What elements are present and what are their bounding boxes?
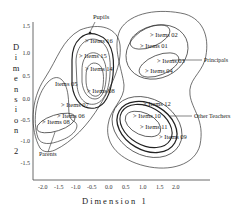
x-tick: -0.5 (87, 184, 97, 190)
item-label: > Items 04 (145, 68, 173, 75)
x-tick: 1.0 (139, 184, 147, 190)
parents-callout: Parents (39, 151, 57, 157)
item-label: > Items 16 (85, 38, 113, 45)
item-label: > Items 01 (140, 43, 168, 50)
x-tick: 0.0 (105, 184, 113, 190)
item-label: > Items 10 (133, 113, 161, 120)
pupils-marker (89, 32, 92, 35)
x-tick: -1.5 (54, 184, 64, 190)
item-label: > Items 07 (61, 102, 89, 109)
item-label: > Items 14 (85, 66, 113, 73)
item-label: > Items 08 (87, 88, 115, 95)
pupils-callout: Pupils (93, 14, 109, 21)
item-label: > Items 03 (157, 58, 185, 65)
item-label: > Items 02 (150, 32, 178, 39)
item-label: > Items 11 (140, 124, 168, 131)
other-teachers-callout: Other Teachers (194, 113, 230, 119)
principals-contour-lower (136, 48, 182, 82)
item-label: > Items 12 (143, 101, 171, 108)
item-label: Items 05 (55, 81, 78, 88)
principals-contour-outer (117, 15, 197, 89)
item-label: > Items 09 (159, 134, 187, 141)
x-tick: 0.5 (122, 184, 130, 190)
principals-callout: Principals (204, 57, 228, 63)
item-label: > Items 08 (42, 119, 70, 126)
y-tick: -1.5 (18, 160, 30, 166)
y-tick: 1.5 (18, 23, 30, 29)
item-label: > Items 15 (79, 53, 107, 60)
x-tick: -2.0 (38, 184, 48, 190)
contour-diagram (0, 0, 239, 213)
x-tick: 2.0 (172, 184, 180, 190)
y-axis-title: D i m e n s i o n 2 (11, 42, 21, 156)
x-tick: -1.0 (71, 184, 81, 190)
parents-leader (48, 132, 55, 152)
x-tick: 1.5 (156, 184, 164, 190)
x-axis-title: Dimension 1 (82, 196, 148, 206)
